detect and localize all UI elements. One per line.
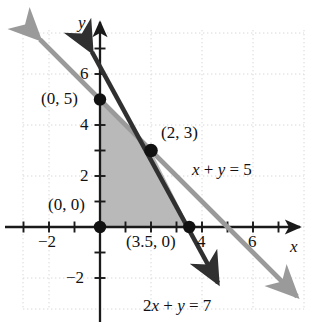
y-tick-label-4: 4: [80, 116, 89, 133]
y-axis-label: y: [78, 14, 86, 31]
x-axis-label: x: [290, 238, 298, 255]
eq1-term-y: y: [218, 160, 226, 179]
equation-label-x-plus-y-5: x + y = 5: [192, 161, 252, 178]
graph-canvas: [0, 0, 326, 330]
x-tick-label-4: 4: [197, 233, 206, 250]
x-tick-label-6: 6: [248, 233, 257, 250]
eq2-equals-value: = 7: [189, 296, 211, 315]
point-x-intercept: [183, 221, 195, 233]
eq2-term-x: x: [152, 296, 160, 315]
eq2-coefficient: 2: [143, 296, 152, 315]
eq1-term-x: x: [192, 160, 200, 179]
y-tick-label-neg2: −2: [66, 269, 84, 286]
point-label-3p5-0: (3.5, 0): [126, 233, 176, 250]
point-label-2-3: (2, 3): [161, 124, 198, 141]
math-figure: x y −2 4 6 6 4 2 −2 (0, 5) (2, 3) (0, 0)…: [0, 0, 326, 330]
equation-label-2x-plus-y-7: 2x + y = 7: [143, 297, 211, 314]
point-origin: [94, 221, 106, 233]
eq2-term-y: y: [177, 296, 185, 315]
y-tick-label-6: 6: [80, 65, 89, 82]
y-tick-label-2: 2: [80, 167, 89, 184]
point-y-intercept: [94, 93, 106, 105]
point-label-0-5: (0, 5): [41, 90, 78, 107]
line-x-plus-y-5: [40, 40, 297, 297]
eq1-operator: +: [204, 160, 214, 179]
eq2-operator: +: [163, 296, 173, 315]
point-intersection: [144, 144, 158, 158]
eq1-equals-value: = 5: [229, 160, 251, 179]
x-tick-label-neg2: −2: [38, 233, 56, 250]
point-label-0-0: (0, 0): [48, 196, 85, 213]
